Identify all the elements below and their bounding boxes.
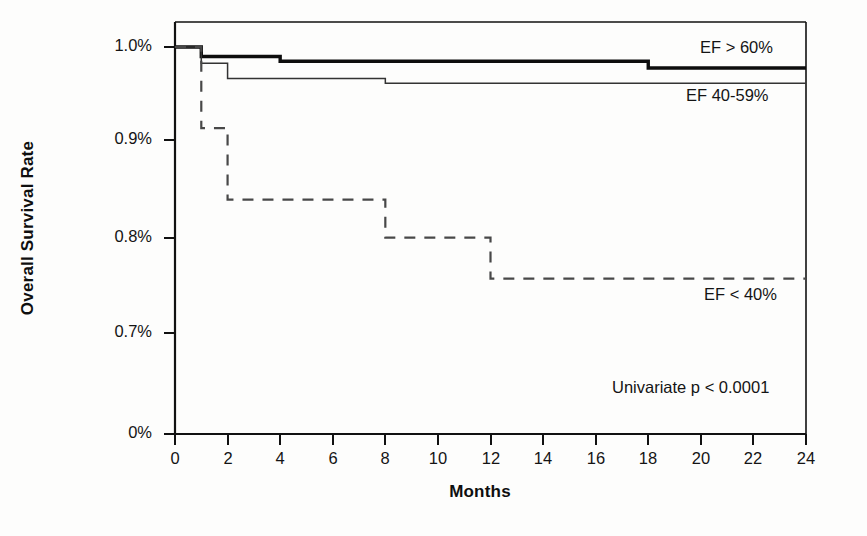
y-tick-label-3: 0.8% — [78, 227, 152, 246]
x-tick-label-20: 20 — [681, 449, 721, 468]
y-axis-title: Overall Survival Rate — [18, 118, 38, 338]
x-tick-label-18: 18 — [628, 449, 668, 468]
x-tick-label-24: 24 — [786, 449, 826, 468]
annotation-univariate-pvalue: Univariate p < 0.0001 — [612, 378, 769, 397]
series-label-ef-gt60: EF > 60% — [700, 38, 773, 57]
x-tick-label-6: 6 — [313, 449, 353, 468]
y-tick-marks — [164, 47, 175, 434]
x-axis-title: Months — [420, 482, 540, 502]
x-tick-label-22: 22 — [733, 449, 773, 468]
x-tick-label-2: 2 — [208, 449, 248, 468]
series-label-ef-40-59: EF 40-59% — [686, 86, 769, 105]
y-tick-label-2: 0.9% — [78, 129, 152, 148]
survival-chart-figure: Overall Survival Rate Months 1.0% 0.9% 0… — [0, 0, 867, 536]
x-tick-label-16: 16 — [576, 449, 616, 468]
y-tick-label-1: 1.0% — [78, 36, 152, 55]
x-tick-label-12: 12 — [471, 449, 511, 468]
series-label-ef-lt40: EF < 40% — [704, 285, 777, 304]
series-line-ef-lt40 — [175, 47, 806, 279]
x-tick-label-14: 14 — [523, 449, 563, 468]
x-tick-label-10: 10 — [418, 449, 458, 468]
series-group — [175, 47, 806, 279]
x-tick-label-4: 4 — [260, 449, 300, 468]
x-tick-label-8: 8 — [365, 449, 405, 468]
x-tick-label-0: 0 — [155, 449, 195, 468]
y-tick-label-5: 0% — [78, 423, 152, 442]
y-tick-label-4: 0.7% — [78, 322, 152, 341]
x-tick-marks — [175, 434, 806, 445]
